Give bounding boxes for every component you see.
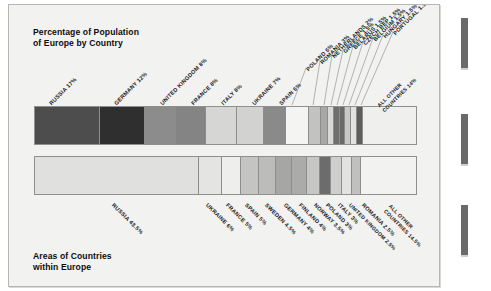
figure-panel: Percentage of Population of Europe by Co… [8,4,440,287]
edge-rule-1 [461,68,468,70]
area-label-russia: RUSSIA 43.5% [111,202,144,235]
area-segment-all-other-countries [361,157,416,194]
population-label-france: FRANCE 8% [190,77,219,106]
population-segment-romania [309,107,320,144]
population-bar [34,106,417,145]
page-gutter [444,0,491,291]
population-segment-france [176,107,206,144]
population-segment-spain [264,107,287,144]
population-segment-italy [206,107,236,144]
area-segment-united-kingdom [342,157,351,194]
edge-rule-3 [461,255,468,257]
population-chart-title: Percentage of Population of Europe by Co… [33,27,139,48]
area-segment-poland [320,157,331,194]
population-label-germany: GERMANY 12% [113,71,148,106]
population-segment-ukraine [237,107,264,144]
population-label-italy: ITALY 8% [220,83,243,106]
area-segment-germany [276,157,291,194]
area-segment-spain [241,157,260,194]
area-segment-sweden [259,157,276,194]
edge-tab-1 [461,18,468,68]
population-segment-poland [286,107,309,144]
area-bar [34,156,417,195]
area-segment-norway [307,157,320,194]
area-chart-title: Areas of Countries within Europe [33,251,112,272]
population-segment-all-other-countries [363,107,416,144]
edge-tab-3 [461,205,468,255]
population-label-russia: RUSSIA 17% [48,76,78,106]
area-segment-ukraine [199,157,222,194]
infographic-page: Percentage of Population of Europe by Co… [0,0,491,291]
area-segment-italy [331,157,342,194]
population-segment-united-kingdom [145,107,175,144]
area-segment-romania [352,157,361,194]
population-segment-netherlands [321,107,329,144]
area-segment-russia [35,157,199,194]
population-segment-germany [100,107,146,144]
population-segment-russia [35,107,100,144]
edge-rule-2 [461,164,468,166]
population-label-spain: SPAIN 6% [278,82,302,106]
area-segment-finland [292,157,307,194]
area-segment-france [222,157,241,194]
edge-tab-2 [461,114,468,164]
